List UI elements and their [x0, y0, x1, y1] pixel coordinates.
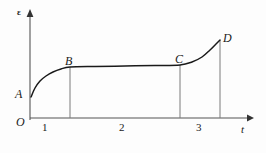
stage-label-2: 2	[119, 122, 125, 133]
creep-curve-figure: ε O t A B C D 1 2 3	[0, 0, 266, 153]
stage-label-1: 1	[42, 122, 48, 133]
plot-canvas	[0, 0, 266, 153]
stage-label-3: 3	[196, 122, 202, 133]
point-label-b: B	[65, 55, 72, 67]
y-axis-label: ε	[17, 8, 21, 17]
x-axis-arrowhead	[247, 114, 254, 121]
x-axis-label: t	[241, 124, 244, 135]
y-axis-arrowhead	[27, 9, 34, 17]
creep-strain-curve	[31, 40, 220, 97]
point-label-c: C	[175, 53, 183, 65]
point-label-a: A	[15, 88, 22, 100]
origin-label: O	[16, 116, 25, 128]
point-label-d: D	[223, 32, 232, 44]
